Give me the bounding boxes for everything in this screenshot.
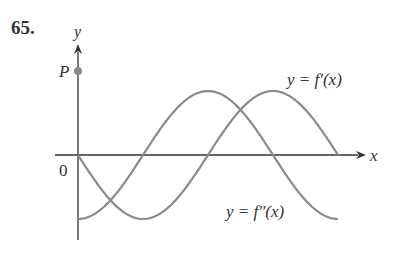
x-axis-label: x: [369, 146, 378, 165]
label-f-double-prime: y = f″(x): [224, 202, 285, 221]
point-p-label: P: [58, 62, 69, 81]
origin-label: 0: [59, 161, 68, 180]
y-axis-label: y: [72, 23, 82, 41]
chart: y P 0 x y = f′(x) y = f″(x): [0, 0, 394, 253]
point-p: [74, 67, 82, 75]
label-f-prime: y = f′(x): [285, 70, 342, 89]
